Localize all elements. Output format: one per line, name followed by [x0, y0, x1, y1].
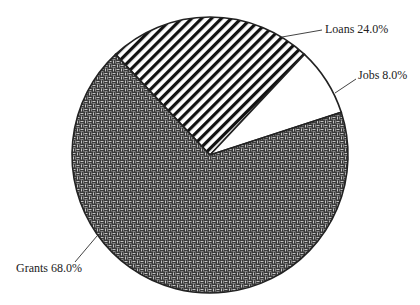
pie-chart: Loans 24.0% Jobs 8.0% Grants 68.0% — [0, 0, 420, 305]
loans-leader-line — [282, 30, 322, 37]
jobs-leader-line — [335, 79, 356, 93]
grants-leader-line — [75, 236, 97, 262]
pie-slices — [72, 17, 348, 293]
loans-label: Loans 24.0% — [325, 22, 388, 36]
grants-label: Grants 68.0% — [16, 261, 82, 275]
jobs-label: Jobs 8.0% — [358, 68, 407, 82]
